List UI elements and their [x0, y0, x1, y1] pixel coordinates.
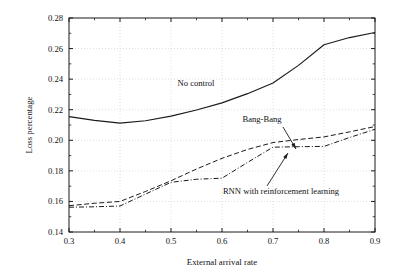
annotation-label-rnn-with-reinforcement-learning: RNN with reinforcement learning [223, 186, 340, 196]
y-tick-label: 0.24 [48, 74, 64, 84]
y-tick-label: 0.28 [48, 13, 63, 23]
y-tick-label: 0.16 [48, 196, 64, 206]
x-tick-label: 0.7 [268, 236, 279, 246]
y-tick-label: 0.18 [48, 166, 63, 176]
x-tick-label: 0.8 [319, 236, 330, 246]
y-tick-label: 0.22 [48, 105, 63, 115]
x-tick-label: 0.5 [166, 236, 177, 246]
y-tick-label: 0.20 [48, 135, 63, 145]
x-tick-label: 0.9 [370, 236, 381, 246]
x-tick-label: 0.3 [64, 236, 75, 246]
y-axis-title: Loss percentage [24, 96, 34, 153]
y-tick-label: 0.26 [48, 44, 64, 54]
chart-figure: 0.30.40.50.60.70.80.9 0.140.160.180.200.… [0, 0, 400, 279]
y-tick-label: 0.14 [48, 227, 64, 237]
loss-percentage-line-chart: 0.30.40.50.60.70.80.9 0.140.160.180.200.… [0, 0, 400, 279]
x-tick-label: 0.4 [115, 236, 126, 246]
x-tick-label: 0.6 [217, 236, 228, 246]
annotation-label-bang-bang: Bang-Bang [242, 114, 282, 124]
x-axis-title: External arrival rate [187, 257, 257, 267]
annotation-label-no-control: No control [178, 78, 216, 88]
